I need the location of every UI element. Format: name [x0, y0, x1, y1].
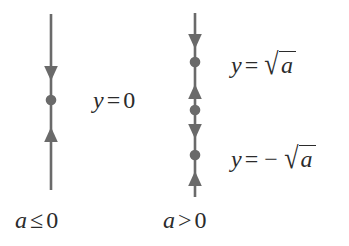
radical-sqrt-a: √a [261, 48, 296, 79]
right-arrow-up-1 [188, 84, 202, 99]
radicand-a: a [279, 51, 296, 77]
radical-neg-sqrt-a: √a [281, 142, 316, 173]
right-equilibrium-dot-lower [190, 150, 201, 161]
right-arrow-down-2 [188, 124, 202, 139]
label-y-equals-zero-eq: = [104, 87, 124, 113]
right-equilibrium-dot-origin [190, 105, 201, 116]
caption-a-gt-zero: a>0 [163, 208, 207, 232]
caption-left-relation: ≤ [27, 207, 46, 233]
left-arrow-up [44, 127, 58, 142]
caption-right-relation: > [175, 207, 195, 233]
left-equilibrium-dot [46, 95, 57, 106]
caption-a-le-zero: a≤0 [15, 208, 58, 232]
caption-right-variable: a [163, 207, 175, 233]
label-y-equals-sqrt-a: y=√a [231, 48, 296, 79]
label-neg-sqrt-eq: = [242, 146, 262, 172]
left-arrow-down [44, 66, 58, 81]
radicand-a: a [299, 145, 316, 171]
label-sqrt-eq: = [242, 52, 262, 78]
right-equilibrium-dot-upper [190, 57, 201, 68]
right-arrow-up-2 [188, 171, 202, 186]
label-neg-sqrt-lhs: y [231, 146, 242, 172]
label-y-equals-zero: y=0 [93, 88, 135, 112]
minus-sign: − [261, 146, 281, 172]
caption-right-value: 0 [195, 207, 207, 233]
caption-left-variable: a [15, 207, 27, 233]
sqrt-icon: √ [264, 49, 278, 80]
label-y-equals-zero-lhs: y [93, 87, 104, 113]
label-y-equals-zero-rhs: 0 [123, 87, 135, 113]
phase-line-figure: y=0 y=√a y=−√a a≤0 a>0 [0, 0, 349, 246]
label-y-equals-neg-sqrt-a: y=−√a [231, 142, 316, 173]
right-phase-line [160, 0, 230, 210]
right-arrow-down-1 [188, 34, 202, 49]
label-sqrt-lhs: y [231, 52, 242, 78]
sqrt-icon: √ [284, 143, 298, 174]
caption-left-value: 0 [46, 207, 58, 233]
